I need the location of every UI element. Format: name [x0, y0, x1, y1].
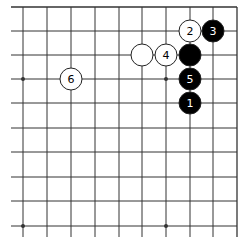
white-stone	[131, 44, 153, 66]
black-stone	[179, 44, 201, 66]
black-stone-1: 1	[179, 92, 201, 114]
go-board: 123456	[0, 0, 245, 247]
black-stone-3: 3	[202, 20, 224, 42]
stone-disc	[131, 44, 153, 66]
white-stone-6: 6	[60, 68, 82, 90]
star-point	[21, 224, 25, 228]
move-number: 4	[163, 49, 170, 62]
star-point	[164, 77, 168, 81]
stone-disc	[179, 44, 201, 66]
black-stone-5: 5	[179, 68, 201, 90]
move-number: 1	[187, 97, 194, 110]
star-point	[164, 224, 168, 228]
move-number: 3	[210, 25, 217, 38]
move-number: 5	[187, 73, 194, 86]
board-grid	[11, 7, 237, 237]
white-stone-2: 2	[179, 20, 201, 42]
star-point	[21, 77, 25, 81]
white-stone-4: 4	[155, 44, 177, 66]
move-number: 6	[68, 73, 75, 86]
move-number: 2	[187, 25, 194, 38]
